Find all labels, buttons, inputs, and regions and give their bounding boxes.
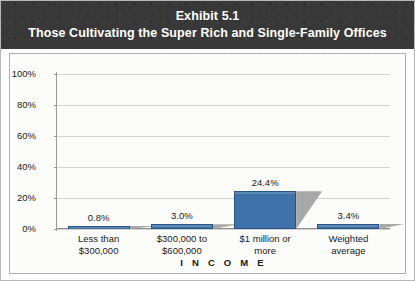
bar-group[interactable]: 0.8% — [68, 74, 130, 229]
bars-group: 0.8%3.0%24.4%3.4% — [57, 74, 390, 229]
bar[interactable] — [151, 224, 213, 229]
y-axis-tick-label: 20% — [0, 192, 36, 203]
y-axis-tick-label: 60% — [0, 130, 36, 141]
chart-subtitle: Those Cultivating the Super Rich and Sin… — [28, 25, 387, 42]
bar[interactable] — [68, 226, 130, 229]
y-axis-tick-mark — [54, 229, 57, 230]
category-label-line: $600,000 — [140, 245, 223, 257]
bar-value-label: 0.8% — [88, 212, 110, 223]
category-label-line: Weighted — [307, 233, 390, 245]
category-label-line: $1 million or — [224, 233, 307, 245]
x-axis-category-label: Weightedaverage — [307, 233, 390, 256]
x-axis-title: I N C O M E — [57, 257, 390, 268]
bar-value-label: 3.4% — [338, 210, 360, 221]
category-label-line: $300,000 — [57, 245, 140, 257]
y-axis-tick-label: 40% — [0, 161, 36, 172]
bar-value-label: 3.0% — [171, 210, 193, 221]
bar[interactable] — [317, 224, 379, 229]
bar[interactable] — [234, 191, 296, 229]
chart-panel: 0%20%40%60%80%100% 0.8%3.0%24.4%3.4% Les… — [9, 53, 406, 274]
category-label-line: average — [307, 245, 390, 257]
x-axis-category-label: $300,000 to$600,000 — [140, 233, 223, 256]
category-label-line: Less than — [57, 233, 140, 245]
x-axis-category-label: Less than$300,000 — [57, 233, 140, 256]
bar-group[interactable]: 3.0% — [151, 74, 213, 229]
bar-value-label: 24.4% — [252, 177, 279, 188]
exhibit-label: Exhibit 5.1 — [176, 8, 240, 25]
y-axis-tick-label: 0% — [0, 223, 36, 234]
chart-header-banner: Exhibit 5.1 Those Cultivating the Super … — [1, 1, 414, 49]
y-axis-tick-label: 100% — [0, 68, 36, 79]
x-axis-category-labels: Less than$300,000$300,000 to$600,000$1 m… — [57, 233, 390, 259]
bar-group[interactable]: 24.4% — [234, 74, 296, 229]
category-label-line: $300,000 to — [140, 233, 223, 245]
gridline — [57, 229, 390, 230]
x-axis-category-label: $1 million ormore — [224, 233, 307, 256]
category-label-line: more — [224, 245, 307, 257]
chart-screenshot: Exhibit 5.1 Those Cultivating the Super … — [0, 0, 415, 281]
y-axis-tick-label: 80% — [0, 99, 36, 110]
bar-shadow — [379, 224, 405, 229]
bar-group[interactable]: 3.4% — [317, 74, 379, 229]
